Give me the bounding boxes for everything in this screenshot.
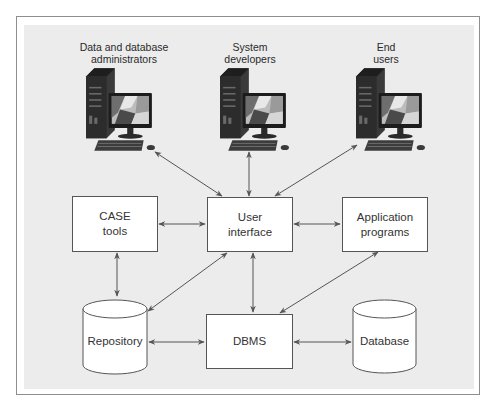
arrow-endusers-ui: [275, 145, 357, 196]
user-interface-label: User: [228, 210, 272, 225]
user-interface-label: interface: [228, 225, 272, 240]
dbms-label: DBMS: [233, 334, 266, 349]
arrow-dba-ui: [155, 152, 222, 196]
case-tools-box: CASE tools: [72, 196, 158, 252]
case-tools-label: CASE: [99, 209, 130, 224]
desktop-computer-icon: [220, 68, 289, 150]
case-tools-label: tools: [99, 224, 130, 239]
user-interface-box: User interface: [207, 197, 293, 252]
arrow-ui-repository: [148, 253, 227, 311]
desktop-computer-icon: [356, 68, 425, 150]
desktop-computer-icon: [86, 68, 155, 150]
application-programs-label: programs: [357, 225, 413, 240]
database-label: Database: [353, 335, 416, 347]
application-programs-box: Application programs: [342, 197, 428, 252]
dbms-box: DBMS: [206, 314, 293, 369]
application-programs-label: Application: [357, 210, 413, 225]
repository-label: Repository: [83, 335, 147, 347]
